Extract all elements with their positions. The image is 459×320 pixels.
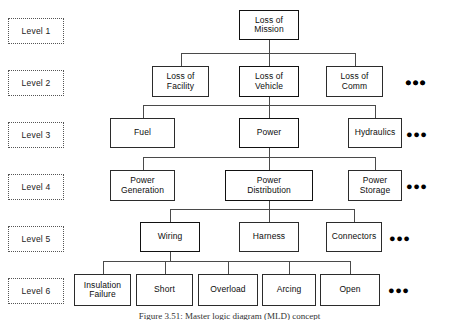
node-level-2-2[interactable]: Loss ofVehicle bbox=[239, 66, 299, 97]
connector-bus bbox=[143, 157, 376, 158]
level-tag-2: Level 2 bbox=[8, 70, 64, 96]
node-label-line: Open bbox=[338, 285, 361, 295]
connector-drop bbox=[375, 105, 376, 118]
connector-drop bbox=[269, 209, 270, 222]
node-level-6-5[interactable]: Open bbox=[320, 274, 380, 306]
connector-drop bbox=[269, 53, 270, 66]
node-level-1-1[interactable]: Loss ofMission bbox=[239, 10, 299, 40]
node-level-5-1[interactable]: Wiring bbox=[140, 222, 200, 252]
level-tag-6: Level 6 bbox=[8, 278, 64, 304]
node-level-5-2[interactable]: Harness bbox=[239, 222, 299, 252]
node-label-line: Power bbox=[256, 128, 283, 138]
node-label-line: Fuel bbox=[133, 128, 152, 138]
node-label-line: Distribution bbox=[246, 186, 292, 196]
connector-drop bbox=[165, 261, 166, 274]
node-label-line: Facility bbox=[165, 82, 195, 92]
node-level-6-4[interactable]: Arcing bbox=[262, 274, 316, 306]
connector-drop bbox=[375, 157, 376, 170]
connector-bus bbox=[143, 105, 376, 106]
connector-drop bbox=[354, 209, 355, 222]
node-level-3-3[interactable]: Hydraulics bbox=[348, 118, 402, 148]
connector-drop bbox=[289, 261, 290, 274]
node-label-line: Overload bbox=[209, 285, 246, 295]
connector-stem bbox=[269, 40, 270, 53]
node-level-6-1[interactable]: InsulationFailure bbox=[74, 274, 131, 306]
node-label-line: Mission bbox=[253, 25, 285, 35]
node-level-3-2[interactable]: Power bbox=[239, 118, 299, 148]
connector-drop bbox=[269, 157, 270, 170]
node-level-2-3[interactable]: Loss ofComm bbox=[326, 66, 383, 97]
node-level-4-1[interactable]: PowerGeneration bbox=[110, 170, 175, 201]
level-tag-1: Level 1 bbox=[8, 18, 64, 44]
figure-caption: Figure 3.51: Master logic diagram (MLD) … bbox=[0, 311, 459, 320]
node-level-4-2[interactable]: PowerDistribution bbox=[225, 170, 313, 201]
connector-bus bbox=[181, 53, 355, 54]
node-level-3-1[interactable]: Fuel bbox=[110, 118, 175, 148]
node-label-line: Failure bbox=[83, 290, 122, 300]
level-tag-4: Level 4 bbox=[8, 174, 64, 200]
ellipsis-level-4: ●●● bbox=[406, 182, 427, 190]
node-level-2-1[interactable]: Loss ofFacility bbox=[152, 66, 209, 97]
connector-drop bbox=[181, 53, 182, 66]
node-level-4-3[interactable]: PowerStorage bbox=[348, 170, 402, 201]
ellipsis-level-6: ●●● bbox=[388, 286, 409, 294]
master-logic-diagram: Level 1Level 2Level 3Level 4Level 5Level… bbox=[0, 0, 459, 320]
node-label-line: Arcing bbox=[276, 285, 303, 295]
node-level-5-3[interactable]: Connectors bbox=[326, 222, 382, 252]
node-label-line: Vehicle bbox=[254, 82, 284, 92]
connector-drop bbox=[170, 209, 171, 222]
node-label-line: Comm bbox=[339, 82, 369, 92]
node-level-6-3[interactable]: Overload bbox=[198, 274, 258, 306]
ellipsis-level-3: ●●● bbox=[406, 130, 427, 138]
level-tag-3: Level 3 bbox=[8, 122, 64, 148]
connector-bus bbox=[103, 261, 351, 262]
connector-drop bbox=[269, 105, 270, 118]
ellipsis-level-5: ●●● bbox=[389, 234, 410, 242]
connector-drop bbox=[350, 261, 351, 274]
ellipsis-level-2: ●●● bbox=[405, 78, 426, 86]
connector-drop bbox=[355, 53, 356, 66]
node-label-line: Connectors bbox=[331, 232, 377, 242]
node-label-line: Harness bbox=[252, 232, 286, 242]
node-level-6-2[interactable]: Short bbox=[136, 274, 193, 306]
connector-drop bbox=[103, 261, 104, 274]
connector-drop bbox=[228, 261, 229, 274]
connector-drop bbox=[143, 105, 144, 118]
node-label-line: Storage bbox=[359, 186, 391, 196]
connector-stem bbox=[269, 148, 270, 157]
connector-stem bbox=[170, 252, 171, 261]
connector-drop bbox=[143, 157, 144, 170]
connector-stem bbox=[269, 97, 270, 105]
node-label-line: Hydraulics bbox=[354, 128, 397, 138]
node-label-line: Generation bbox=[120, 186, 165, 196]
connector-stem bbox=[269, 201, 270, 209]
node-label-line: Short bbox=[153, 285, 176, 295]
node-label-line: Wiring bbox=[157, 232, 184, 242]
level-tag-5: Level 5 bbox=[8, 226, 64, 252]
connector-bus bbox=[170, 209, 354, 210]
